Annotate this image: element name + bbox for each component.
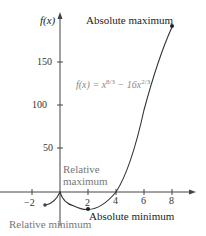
abs-max-label: Absolute maximum	[86, 15, 173, 26]
y-axis-label: f(x)	[40, 15, 55, 26]
y-tick-150: 150	[37, 57, 52, 67]
abs-min-label: Absolute minimum	[89, 211, 174, 222]
x-tick-4: 4	[113, 196, 118, 206]
y-tick-100: 100	[32, 100, 47, 110]
y-tick-50: 50	[43, 143, 53, 153]
rel-max-label-2: maximum	[63, 176, 108, 187]
x-tick-2: 2	[85, 198, 90, 208]
x-tick-neg2: −2	[24, 198, 35, 208]
rel-min-label: Relative minimum	[9, 219, 91, 230]
x-tick-8: 8	[169, 196, 174, 206]
equation-label: f(x) = x8/3 − 16x2/3	[76, 78, 150, 90]
x-tick-6: 6	[141, 196, 146, 206]
y-axis-arrow-icon	[58, 12, 63, 19]
rel-max-label-1: Relative	[63, 164, 100, 175]
rel-min-point	[43, 203, 47, 207]
x-axis-arrow-icon	[189, 190, 196, 195]
